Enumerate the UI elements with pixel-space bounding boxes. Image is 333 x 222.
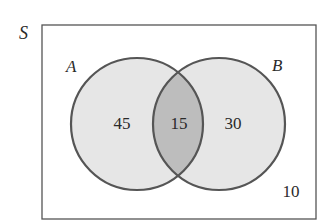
outside-value: 10 bbox=[283, 182, 300, 201]
set-a-label: A bbox=[65, 57, 77, 76]
intersection-value: 15 bbox=[171, 114, 188, 133]
universe-label: S bbox=[19, 23, 28, 43]
a-only-value: 45 bbox=[114, 114, 131, 133]
venn-diagram: S A B 45 15 30 10 bbox=[0, 0, 333, 222]
set-b-label: B bbox=[272, 56, 283, 75]
b-only-value: 30 bbox=[225, 114, 242, 133]
